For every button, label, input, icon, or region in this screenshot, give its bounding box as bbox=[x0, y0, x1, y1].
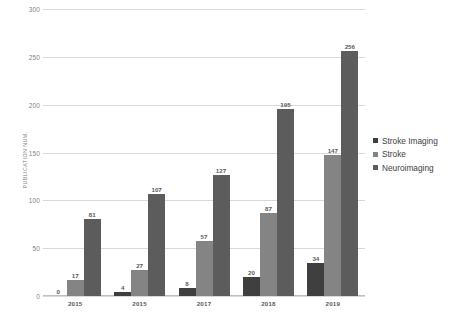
bar-value-label: 87 bbox=[265, 205, 272, 212]
bar-slot: 34 bbox=[307, 9, 324, 296]
bar[interactable]: 27 bbox=[131, 270, 148, 296]
y-axis-title: PUBLICATION NUM. bbox=[22, 131, 28, 188]
legend-swatch-icon bbox=[373, 152, 378, 157]
y-axis-tick-label: 0 bbox=[10, 293, 40, 300]
x-axis-tick-label: 2015 bbox=[107, 300, 171, 307]
bar-group: 2087195 bbox=[236, 9, 300, 296]
legend-label: Neuroimaging bbox=[382, 163, 434, 173]
bar-slot: 0 bbox=[50, 9, 67, 296]
bar[interactable]: 256 bbox=[341, 51, 358, 296]
bar-slot: 17 bbox=[67, 9, 84, 296]
legend-swatch-icon bbox=[373, 138, 378, 143]
legend-item[interactable]: Stroke Imaging bbox=[373, 134, 459, 148]
bar-slot: 107 bbox=[148, 9, 165, 296]
bar-value-label: 147 bbox=[328, 147, 338, 154]
bar-value-label: 81 bbox=[89, 211, 96, 218]
x-axis-tick-label: 2015 bbox=[43, 300, 107, 307]
bar[interactable]: 34 bbox=[307, 263, 324, 296]
y-axis-tick-label: 150 bbox=[10, 149, 40, 156]
bar-group: 01781 bbox=[43, 9, 107, 296]
bar-value-label: 34 bbox=[312, 255, 319, 262]
bar-value-label: 17 bbox=[72, 272, 79, 279]
bar-group: 34147256 bbox=[301, 9, 365, 296]
x-axis-tick-labels: 20152015201720182019 bbox=[43, 300, 365, 307]
bar[interactable]: 107 bbox=[148, 194, 165, 296]
bar-groups: 01781427107857127208719534147256 bbox=[43, 9, 365, 296]
bar-slot: 8 bbox=[179, 9, 196, 296]
bar-value-label: 4 bbox=[121, 284, 124, 291]
bar-slot: 195 bbox=[277, 9, 294, 296]
bar-slot: 256 bbox=[341, 9, 358, 296]
y-axis-tick-label: 250 bbox=[10, 53, 40, 60]
bar[interactable]: 127 bbox=[213, 175, 230, 296]
bar[interactable]: 8 bbox=[179, 288, 196, 296]
bar-slot: 27 bbox=[131, 9, 148, 296]
bar[interactable]: 17 bbox=[67, 280, 84, 296]
bar[interactable]: 81 bbox=[84, 219, 101, 296]
bar-slot: 4 bbox=[114, 9, 131, 296]
bar-value-label: 107 bbox=[151, 186, 161, 193]
bar[interactable]: 147 bbox=[324, 155, 341, 296]
y-axis-tick-label: 100 bbox=[10, 197, 40, 204]
bar[interactable]: 20 bbox=[243, 277, 260, 296]
bar-slot: 57 bbox=[196, 9, 213, 296]
y-axis-tick-label: 200 bbox=[10, 101, 40, 108]
bar-group: 427107 bbox=[107, 9, 171, 296]
bar-slot: 87 bbox=[260, 9, 277, 296]
legend-label: Stroke Imaging bbox=[382, 136, 438, 146]
bar-value-label: 0 bbox=[56, 288, 59, 295]
legend-item[interactable]: Neuroimaging bbox=[373, 161, 459, 175]
bar-value-label: 8 bbox=[185, 280, 188, 287]
bar[interactable]: 57 bbox=[196, 241, 213, 296]
gridline bbox=[43, 296, 365, 297]
bar-slot: 81 bbox=[84, 9, 101, 296]
bar-value-label: 127 bbox=[216, 167, 226, 174]
y-axis-tick-label: 300 bbox=[10, 6, 40, 13]
bar-slot: 127 bbox=[213, 9, 230, 296]
x-axis-tick-label: 2019 bbox=[301, 300, 365, 307]
y-axis-tick-label: 50 bbox=[10, 245, 40, 252]
bar-group: 857127 bbox=[172, 9, 236, 296]
bar-value-label: 20 bbox=[248, 269, 255, 276]
chart-legend: Stroke ImagingStrokeNeuroimaging bbox=[373, 134, 459, 175]
bar-value-label: 27 bbox=[136, 262, 143, 269]
legend-label: Stroke bbox=[382, 149, 406, 159]
bar-value-label: 57 bbox=[201, 233, 208, 240]
bar[interactable]: 4 bbox=[114, 292, 131, 296]
bar[interactable]: 87 bbox=[260, 213, 277, 296]
x-axis-tick-label: 2018 bbox=[236, 300, 300, 307]
bar-value-label: 195 bbox=[280, 101, 290, 108]
bar-slot: 147 bbox=[324, 9, 341, 296]
x-axis-tick-label: 2017 bbox=[172, 300, 236, 307]
legend-item[interactable]: Stroke bbox=[373, 148, 459, 162]
bar-slot: 20 bbox=[243, 9, 260, 296]
bar-chart: PUBLICATION NUM. 050100150200250300 0178… bbox=[0, 0, 461, 319]
bar[interactable]: 195 bbox=[277, 109, 294, 296]
legend-swatch-icon bbox=[373, 165, 378, 170]
bar-value-label: 256 bbox=[345, 43, 355, 50]
